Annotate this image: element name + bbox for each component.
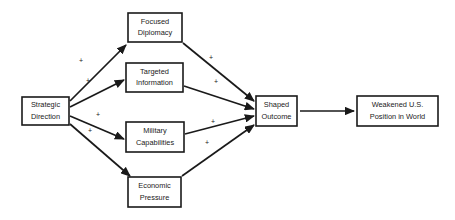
- edge-sign-strategic-to-economic: +: [88, 127, 92, 134]
- edge-sign-targeted-to-shaped: +: [214, 78, 218, 85]
- edges-layer: [70, 43, 354, 176]
- node-weakened-us-position[interactable]: Weakened U.S.Position in World: [357, 96, 438, 126]
- edge-arrow-targeted-to-shaped: [184, 86, 254, 109]
- node-label-line1-strategic-direction: Strategic: [31, 100, 60, 109]
- node-label-line1-economic-pressure: Economic: [138, 181, 171, 190]
- diagram-canvas: StrategicDirectionFocusedDiplomacyTarget…: [0, 0, 455, 220]
- nodes-layer: StrategicDirectionFocusedDiplomacyTarget…: [22, 13, 438, 207]
- node-strategic-direction[interactable]: StrategicDirection: [22, 97, 69, 125]
- node-label-line2-economic-pressure: Pressure: [140, 193, 170, 202]
- node-label-line1-shaped-outcome: Shaped: [264, 100, 289, 109]
- edge-sign-economic-to-shaped: +: [205, 139, 209, 146]
- node-military-capabilities[interactable]: MilitaryCapabilities: [126, 122, 184, 152]
- node-label-line1-focused-diplomacy: Focused: [141, 17, 169, 26]
- edge-strategic-to-military: [70, 116, 124, 139]
- node-label-line2-strategic-direction: Direction: [31, 112, 60, 121]
- node-label-line2-targeted-information: Information: [136, 78, 173, 87]
- edge-arrow-focused-to-shaped: [183, 43, 254, 101]
- edge-focused-to-shaped: [183, 43, 254, 101]
- node-label-line2-weakened-us-position: Position in World: [370, 112, 425, 121]
- node-label-line2-shaped-outcome: Outcome: [262, 112, 292, 121]
- node-label-line2-military-capabilities: Capabilities: [136, 138, 175, 147]
- edge-sign-military-to-shaped: +: [211, 118, 215, 125]
- node-targeted-information[interactable]: TargetedInformation: [126, 63, 183, 92]
- causal-diagram: StrategicDirectionFocusedDiplomacyTarget…: [0, 0, 455, 220]
- edge-sign-strategic-to-focused: +: [79, 57, 83, 64]
- node-economic-pressure[interactable]: EconomicPressure: [128, 177, 181, 207]
- node-shaped-outcome[interactable]: ShapedOutcome: [256, 96, 297, 126]
- edge-strategic-to-economic: [70, 124, 130, 176]
- node-focused-diplomacy[interactable]: FocusedDiplomacy: [128, 13, 182, 42]
- node-label-line1-targeted-information: Targeted: [140, 67, 169, 76]
- node-label-line2-focused-diplomacy: Diplomacy: [138, 28, 173, 37]
- edge-sign-strategic-to-targeted: +: [86, 77, 90, 84]
- edge-sign-focused-to-shaped: +: [209, 54, 213, 61]
- edge-arrow-strategic-to-economic: [70, 124, 130, 176]
- node-label-line1-weakened-us-position: Weakened U.S.: [372, 100, 424, 109]
- edge-targeted-to-shaped: [184, 86, 254, 109]
- edge-sign-strategic-to-military: +: [96, 111, 100, 118]
- node-label-line1-military-capabilities: Military: [143, 126, 167, 135]
- edge-arrow-strategic-to-military: [70, 116, 124, 139]
